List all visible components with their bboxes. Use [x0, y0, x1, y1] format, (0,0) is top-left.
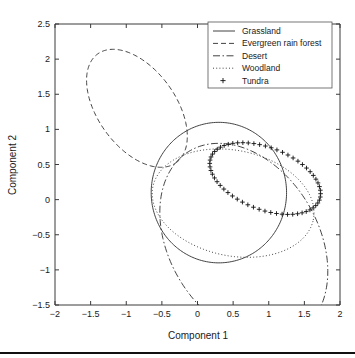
plot-svg: Component 2 Component 1 −2−1.5−1−0.500.5…: [0, 0, 355, 358]
tundra-plus-marker: [308, 169, 313, 174]
tundra-markers: [207, 140, 322, 216]
tundra-plus-marker: [291, 156, 296, 161]
tundra-plus-marker: [241, 140, 246, 145]
tundra-plus-marker: [275, 148, 280, 153]
tundra-plus-marker: [218, 183, 223, 188]
tundra-plus-marker: [295, 211, 300, 216]
x-tick-label: 0.5: [227, 309, 240, 319]
tundra-plus-marker: [226, 142, 231, 147]
tundra-plus-marker: [304, 166, 309, 171]
legend: GrasslandEvergreen rain forestDesertWood…: [208, 22, 332, 88]
y-axis-label: Component 2: [7, 135, 18, 195]
tundra-plus-marker: [263, 209, 268, 214]
tundra-plus-marker: [226, 190, 231, 195]
tundra-plus-marker: [252, 141, 257, 146]
tundra-plus-marker: [208, 165, 213, 170]
tundra-plus-marker: [274, 211, 279, 216]
tundra-plus-marker: [311, 173, 316, 178]
curve-grassland: [151, 122, 286, 263]
x-tick-label: 1.5: [298, 309, 311, 319]
tundra-plus-marker: [235, 197, 240, 202]
y-tick-label: 2: [45, 54, 50, 64]
x-tick-label: 0: [195, 309, 200, 319]
x-tick-label: −1.5: [82, 309, 100, 319]
data-curves: [87, 49, 328, 340]
tundra-plus-marker: [257, 142, 262, 147]
y-tick-label: −1.5: [32, 300, 50, 310]
tundra-plus-marker: [251, 205, 256, 210]
y-tick-label: 1.5: [37, 89, 50, 99]
legend-label: Evergreen rain forest: [242, 38, 322, 48]
tundra-plus-marker: [263, 144, 268, 149]
curve-woodland: [152, 149, 314, 257]
y-tick-label: 1: [45, 124, 50, 134]
tundra-plus-marker: [300, 211, 305, 216]
y-axis-label-text: Component 2: [7, 135, 18, 195]
tundra-plus-marker: [235, 141, 240, 146]
tundra-plus-marker: [290, 212, 295, 217]
legend-label: Woodland: [242, 63, 280, 73]
y-tick-label: −0.5: [32, 230, 50, 240]
x-tick-label: 2: [337, 309, 342, 319]
tundra-plus-marker: [222, 187, 227, 192]
tundra-plus-marker: [300, 162, 305, 167]
x-tick-label: −1: [121, 309, 131, 319]
tundra-plus-marker: [313, 203, 318, 208]
tundra-plus-marker: [246, 202, 251, 207]
tundra-plus-marker: [280, 150, 285, 155]
x-tick-label: 1: [266, 309, 271, 319]
x-axis-label: Component 1: [168, 330, 228, 341]
tundra-plus-marker: [246, 141, 251, 146]
x-tick-label: −2: [50, 309, 60, 319]
tundra-plus-marker: [240, 200, 245, 205]
legend-label: Tundra: [242, 76, 269, 86]
pca-component-plot: Component 2 Component 1 −2−1.5−1−0.500.5…: [0, 0, 355, 358]
y-tick-label: 0: [45, 195, 50, 205]
curve-evergreen-rain-forest: [87, 49, 188, 167]
y-tick-label: −1: [40, 265, 50, 275]
tundra-plus-marker: [296, 159, 301, 164]
x-tick-label: −0.5: [153, 309, 171, 319]
tundra-plus-marker: [318, 188, 323, 193]
tundra-plus-marker: [212, 149, 217, 154]
y-tick-label: 0.5: [37, 160, 50, 170]
tundra-plus-marker: [268, 210, 273, 215]
legend-label: Desert: [242, 51, 268, 61]
tundra-plus-marker: [257, 207, 262, 212]
legend-label: Grassland: [242, 26, 281, 36]
x-axis-label-text: Component 1: [168, 330, 228, 341]
tundra-plus-marker: [230, 194, 235, 199]
tundra-plus-marker: [285, 212, 290, 217]
tundra-plus-marker: [215, 179, 220, 184]
tundra-plus-marker: [286, 153, 291, 158]
y-tick-label: 2.5: [37, 19, 50, 29]
page-separator-rule: [0, 352, 355, 354]
